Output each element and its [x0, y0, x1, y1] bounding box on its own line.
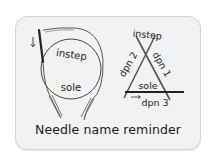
label-dpn-1: dpn 1: [150, 50, 173, 79]
right-arrow-icon: [131, 96, 141, 99]
circular-needle-diagram: instep sole: [31, 28, 103, 120]
label-sole-circular: sole: [61, 82, 81, 93]
card-title: Needle name reminder: [15, 122, 201, 137]
dpn-triangle-diagram: instep dpn 1 dpn 2 sole dpn 3: [116, 28, 184, 108]
needle-tip-dark: [39, 30, 43, 62]
label-dpn-3: dpn 3: [141, 97, 168, 108]
label-instep-circular: instep: [55, 47, 87, 62]
down-arrow-icon: [31, 37, 35, 47]
cable-loop: [43, 28, 103, 120]
needle-tips-bottom: [49, 95, 94, 117]
label-instep-dpn: instep: [132, 28, 162, 42]
label-sole-dpn: sole: [138, 80, 157, 91]
